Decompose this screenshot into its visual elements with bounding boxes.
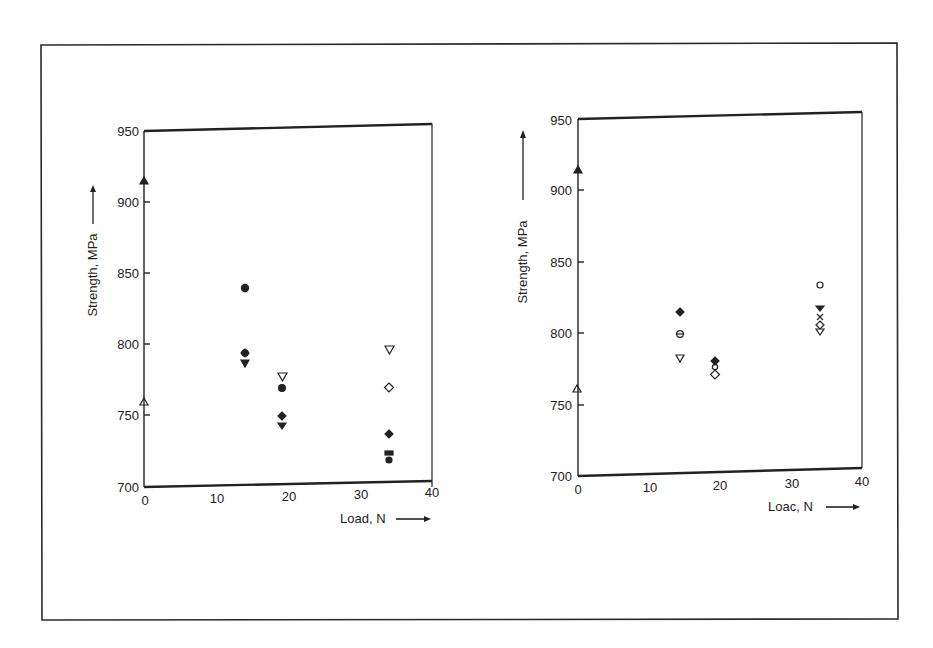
y-tick-label: 750 — [550, 398, 572, 413]
marker-triangle-down-open — [676, 355, 684, 362]
marker-diamond-filled — [711, 357, 719, 365]
y-tick-label: 850 — [550, 255, 572, 270]
right-y-axis-label: Strength, MPa — [515, 220, 530, 304]
marker-triangle-down-open — [278, 373, 287, 381]
marker-triangle-down-filled — [278, 423, 286, 429]
marker-triangle-down-open — [385, 346, 394, 354]
left-chart: 950 900 850 800 750 700 0 10 20 30 40 Lo… — [85, 124, 439, 526]
left-y-axis-label: Strength, MPa — [85, 233, 100, 317]
marker-diamond-open — [711, 370, 720, 379]
y-tick-label: 850 — [117, 266, 139, 281]
marker-circle-filled — [279, 385, 286, 392]
marker-triangle-up-filled — [574, 166, 582, 173]
y-tick-label: 900 — [550, 183, 572, 198]
x-tick-label: 40 — [425, 485, 439, 500]
marker-circle-filled — [386, 457, 392, 463]
marker-circle-filled — [241, 284, 248, 291]
y-tick-label: 950 — [117, 124, 139, 139]
x-tick-label: 10 — [210, 491, 224, 506]
arrow-up-icon — [520, 130, 526, 200]
x-tick-label: 10 — [643, 480, 657, 495]
arrow-right-icon — [826, 504, 860, 510]
left-y-ticks — [144, 202, 150, 415]
x-tick-label: 20 — [713, 478, 727, 493]
y-tick-label: 800 — [550, 326, 572, 341]
marker-diamond-open — [385, 383, 394, 392]
right-x-axis-label: Loac, N — [768, 499, 813, 514]
figure: 950 900 850 800 750 700 0 10 20 30 40 Lo… — [0, 0, 933, 648]
left-y-tick-labels: 950 900 850 800 750 700 — [117, 124, 139, 495]
right-chart: 950 900 850 800 750 700 0 10 20 30 40 Lo… — [515, 112, 869, 514]
marker-triangle-down-filled — [816, 306, 824, 311]
arrow-right-icon — [396, 516, 431, 522]
left-data-points — [140, 177, 394, 463]
marker-diamond-filled — [278, 412, 286, 420]
x-tick-label: 0 — [574, 482, 581, 497]
left-x-tick-labels: 0 10 20 30 40 — [141, 485, 439, 508]
marker-triangle-down-filled — [241, 360, 249, 367]
left-x-axis-label: Load, N — [340, 511, 386, 526]
x-tick-label: 20 — [282, 489, 296, 504]
marker-diamond-open — [816, 321, 824, 329]
y-tick-label: 750 — [117, 408, 139, 423]
marker-diamond-filled — [676, 308, 684, 316]
x-tick-label: 30 — [785, 476, 799, 491]
marker-diamond-filled — [385, 430, 393, 438]
x-tick-label: 40 — [855, 474, 869, 489]
marker-circle-open — [817, 282, 823, 288]
marker-x-mark — [817, 314, 823, 320]
x-tick-label: 0 — [141, 493, 148, 508]
marker-bar-filled — [385, 451, 393, 455]
y-tick-label: 900 — [117, 195, 139, 210]
y-tick-label: 700 — [117, 480, 139, 495]
marker-triangle-down-open — [816, 329, 824, 335]
y-tick-label: 950 — [550, 113, 572, 128]
marker-triangle-up-filled — [140, 177, 148, 184]
right-x-tick-labels: 0 10 20 30 40 — [574, 474, 869, 497]
x-tick-label: 30 — [354, 487, 368, 502]
right-y-tick-labels: 950 900 850 800 750 700 — [550, 113, 572, 484]
right-y-ticks — [578, 190, 584, 405]
right-data-points — [573, 166, 824, 392]
y-tick-label: 800 — [117, 337, 139, 352]
arrow-up-icon — [90, 185, 96, 224]
marker-triangle-up-open — [573, 385, 581, 392]
y-tick-label: 700 — [550, 469, 572, 484]
